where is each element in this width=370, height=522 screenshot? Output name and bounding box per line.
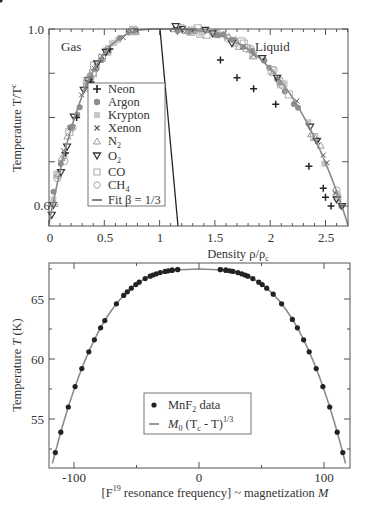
top-xtick-0.5: 0.5 — [97, 230, 113, 245]
mnf2-data-point — [335, 430, 340, 435]
mnf2-data-point — [230, 269, 235, 274]
bottom-axis-ticks — [49, 263, 350, 468]
mnf2-data-point — [264, 286, 269, 291]
mnf2-data-point — [102, 318, 107, 323]
bottom-plot-frame — [49, 263, 350, 468]
neon-marker — [272, 101, 279, 108]
neon-marker — [250, 85, 257, 92]
svg-text:Fit β = 1/3: Fit β = 1/3 — [108, 193, 161, 207]
bottom-xtick-100: 100 — [314, 470, 334, 485]
mnf2-data-point — [0, 0, 3, 3]
mnf2-data-point — [86, 349, 91, 354]
neon-marker — [328, 203, 335, 210]
mnf2-data-point — [327, 404, 332, 409]
mnf2-data-point — [125, 289, 130, 294]
bottom-ytick-65: 65 — [31, 292, 44, 307]
top-xtick-2.5: 2.5 — [318, 230, 334, 245]
top-xtick-1: 1 — [157, 230, 164, 245]
bottom-ytick-60: 60 — [31, 352, 44, 367]
top-ytick-0.6: 0.6 — [34, 198, 51, 213]
mnf2-data-point — [158, 270, 163, 275]
top-ytick-1.0: 1.0 — [28, 22, 44, 37]
gas-annotation: Gas — [61, 39, 81, 54]
top-xtick-2: 2 — [268, 230, 275, 245]
mnf2-data-point — [79, 366, 84, 371]
mnf2-data-point — [137, 280, 142, 285]
neon-marker — [234, 74, 241, 81]
liquid-annotation: Liquid — [255, 39, 290, 54]
top-chart: 1.0 0.6 0 0.5 1 1.5 2 2.5 Density ρ/ρc T… — [9, 22, 348, 263]
mnf2-data-point — [271, 292, 276, 297]
top-x-axis-label: Density ρ/ρc — [207, 247, 269, 263]
mnf2-data-point — [290, 317, 295, 322]
mnf2-data-point — [58, 430, 63, 435]
top-legend: Neon Argon Krypton Xenon N2 O2 — [88, 82, 165, 207]
bottom-y-axis-label: Temperature T (K) — [10, 318, 24, 412]
mnf2-data-point — [53, 450, 58, 455]
svg-text:Xenon: Xenon — [108, 121, 142, 135]
svg-text:Argon: Argon — [108, 95, 140, 109]
mnf2-data-point — [340, 450, 345, 455]
bottom-chart: 65 60 55 -100 0 100 [F19 resonance frequ… — [0, 0, 350, 500]
figure: 1.0 0.6 0 0.5 1 1.5 2 2.5 Density ρ/ρc T… — [0, 0, 370, 522]
mnf2-data-point — [170, 268, 175, 273]
mnf2-data-point — [260, 282, 265, 287]
top-xtick-1.5: 1.5 — [207, 230, 223, 245]
bottom-ytick-55: 55 — [31, 412, 44, 427]
svg-text:Krypton: Krypton — [108, 108, 150, 122]
mnf2-data-point — [143, 276, 148, 281]
bottom-xtick-0: 0 — [196, 470, 203, 485]
neon-marker — [320, 185, 327, 192]
mnf2-data-point — [175, 267, 180, 272]
neon-marker — [217, 56, 224, 63]
mnf2-data-point — [98, 325, 103, 330]
mnf2-data-point — [218, 267, 223, 272]
mnf2-data-point — [250, 276, 255, 281]
mnf2-data-point — [314, 366, 319, 371]
top-y-axis-label: Temperature T/Tc — [9, 83, 24, 172]
mnf2-data-point — [129, 286, 134, 291]
mnf2-data-point — [307, 349, 312, 354]
filled-square-marker-icon — [94, 112, 100, 118]
mnf2-data-point — [92, 337, 97, 342]
mnf2-data-point — [73, 384, 78, 389]
svg-text:Neon: Neon — [108, 82, 136, 96]
mnf2-data-point — [279, 301, 284, 306]
top-xtick-0: 0 — [47, 230, 54, 245]
mnf2-data-point — [245, 274, 250, 279]
neon-marker — [305, 163, 312, 170]
mnf2-data-point — [301, 337, 306, 342]
mnf2-data-point — [66, 404, 71, 409]
svg-text:CO: CO — [108, 165, 125, 179]
mnf2-data-point — [320, 384, 325, 389]
bottom-x-axis-label: [F19 resonance frequency] ~ magnetizatio… — [102, 484, 329, 500]
mnf2-data-points — [0, 0, 345, 455]
mnf2-data-point — [295, 325, 300, 330]
neon-marker — [322, 194, 329, 201]
bottom-xtick-minus100: -100 — [62, 470, 86, 485]
filled-circle-marker-icon — [151, 402, 156, 407]
bottom-legend: MnF2 data M0 (Tc - T)1/3 — [144, 393, 251, 434]
mnf2-data-point — [114, 301, 119, 306]
filled-circle-marker-icon — [94, 99, 100, 105]
